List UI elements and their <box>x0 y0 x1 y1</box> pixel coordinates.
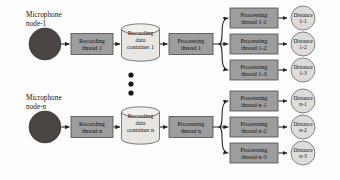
distance-n-2-circle <box>291 115 315 139</box>
branch-connector-row-1 <box>213 18 228 70</box>
distance-1-2-circle <box>291 32 315 56</box>
processing-thread-n-1-box <box>230 91 278 111</box>
distance-n-1-circle <box>291 89 315 113</box>
recording-data-container-n-cylinder <box>122 107 160 144</box>
recording-thread-1-box <box>71 34 113 55</box>
microphone-node-n-icon <box>29 111 61 143</box>
processing-thread-1-box <box>169 34 213 55</box>
processing-thread-1-3-box <box>230 60 278 80</box>
microphone-node-1-label: Microphone node-1 <box>26 11 88 28</box>
branch-connector-row-n <box>213 101 228 153</box>
processing-thread-1-1-box <box>230 8 278 28</box>
distance-1-3-circle <box>291 58 315 82</box>
processing-thread-1-2-box <box>230 34 278 54</box>
processing-thread-n-box <box>169 117 213 138</box>
distance-n-3-circle <box>291 141 315 165</box>
processing-thread-n-3-box <box>230 143 278 163</box>
distance-1-1-circle <box>291 6 315 30</box>
microphone-node-n-label: Microphone node-n <box>26 94 88 111</box>
diagram-canvas: Microphone node-1 Recording thread 1 Rec… <box>0 0 340 180</box>
processing-thread-n-2-box <box>230 117 278 137</box>
recording-thread-n-box <box>71 117 113 138</box>
microphone-node-1-icon <box>29 28 61 60</box>
vertical-ellipsis <box>128 72 133 95</box>
recording-data-container-1-cylinder <box>122 24 160 61</box>
